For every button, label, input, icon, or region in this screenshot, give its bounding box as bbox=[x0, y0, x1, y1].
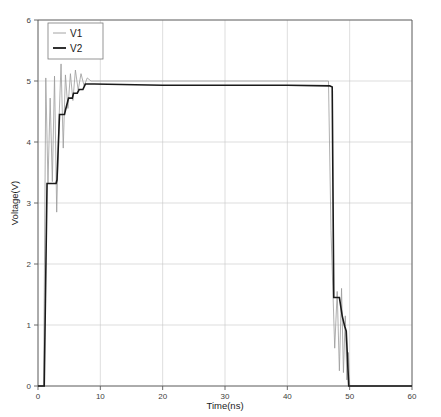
voltage-time-chart-figure: 0102030405060 0123456 Time(ns) Voltage(V… bbox=[0, 0, 441, 417]
y-axis-tick-labels: 0123456 bbox=[27, 16, 32, 391]
x-tick-label: 60 bbox=[408, 392, 417, 401]
x-tick-label: 50 bbox=[345, 392, 354, 401]
y-axis-title: Voltage(V) bbox=[9, 181, 20, 225]
y-tick-label: 1 bbox=[27, 321, 32, 330]
y-tick-label: 6 bbox=[27, 16, 32, 25]
chart-canvas: 0102030405060 0123456 Time(ns) Voltage(V… bbox=[0, 0, 441, 417]
x-tick-label: 40 bbox=[283, 392, 292, 401]
y-tick-label: 2 bbox=[27, 260, 32, 269]
x-tick-label: 0 bbox=[36, 392, 41, 401]
x-tick-label: 10 bbox=[96, 392, 105, 401]
legend-label-v1: V1 bbox=[70, 28, 83, 39]
legend-label-v2: V2 bbox=[70, 43, 83, 54]
x-axis-title: Time(ns) bbox=[206, 400, 243, 411]
y-tick-label: 5 bbox=[27, 77, 32, 86]
legend[interactable]: V1 V2 bbox=[48, 23, 103, 59]
y-tick-label: 0 bbox=[27, 382, 32, 391]
y-tick-label: 4 bbox=[27, 138, 32, 147]
x-tick-label: 20 bbox=[158, 392, 167, 401]
y-tick-label: 3 bbox=[27, 199, 32, 208]
